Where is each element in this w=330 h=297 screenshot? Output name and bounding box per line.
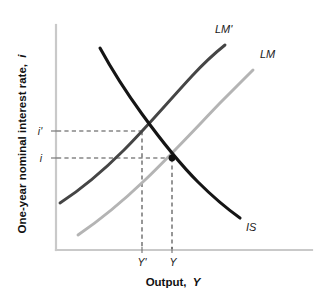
tick-label-y-prime: Y' — [137, 256, 147, 268]
svg-text:One-year nominal interest rate: One-year nominal interest rate, i — [16, 54, 28, 234]
curve-label-is: IS — [246, 221, 257, 233]
x-axis-title: Output, Y — [146, 276, 202, 288]
x-axis-title-variable: Y — [193, 276, 202, 288]
is-lm-chart-svg: LM' LM IS i' i Y' Y One-year nominal int… — [0, 0, 330, 297]
curve-label-lm: LM — [260, 48, 276, 60]
y-axis-title-text: One-year nominal interest rate, — [16, 64, 28, 233]
chart-background — [0, 0, 330, 297]
is-lm-chart-figure: LM' LM IS i' i Y' Y One-year nominal int… — [0, 0, 330, 297]
y-axis-title: One-year nominal interest rate, i — [16, 54, 28, 234]
curve-label-lm-prime: LM' — [215, 23, 233, 35]
tick-label-y: Y — [169, 256, 177, 268]
equilibrium-point-initial — [169, 155, 176, 162]
x-axis-title-text: Output, — [146, 276, 187, 288]
